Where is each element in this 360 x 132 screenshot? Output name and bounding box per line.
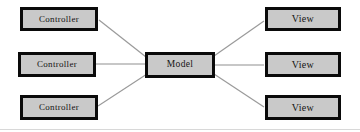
diagram-canvas: Controller Controller Controller Model V…	[0, 0, 360, 132]
node-view-1-label: View	[292, 14, 314, 24]
edge-model-view3	[214, 74, 264, 107]
node-view-2-label: View	[292, 60, 314, 70]
node-controller-3-label: Controller	[39, 103, 79, 112]
edge-model-view1	[214, 21, 264, 56]
node-model-label: Model	[167, 60, 193, 70]
edge-controller1-model	[99, 20, 146, 57]
node-controller-2-label: Controller	[37, 60, 77, 69]
node-view-3-label: View	[292, 103, 314, 113]
node-controller-3[interactable]: Controller	[20, 95, 98, 120]
node-view-1[interactable]: View	[265, 7, 341, 31]
node-view-2[interactable]: View	[265, 52, 341, 77]
node-controller-2[interactable]: Controller	[18, 52, 96, 77]
node-controller-1[interactable]: Controller	[20, 7, 98, 31]
node-controller-1-label: Controller	[39, 15, 79, 24]
node-view-3[interactable]: View	[265, 95, 341, 120]
edge-controller3-model	[98, 74, 147, 106]
node-model[interactable]: Model	[145, 52, 215, 78]
